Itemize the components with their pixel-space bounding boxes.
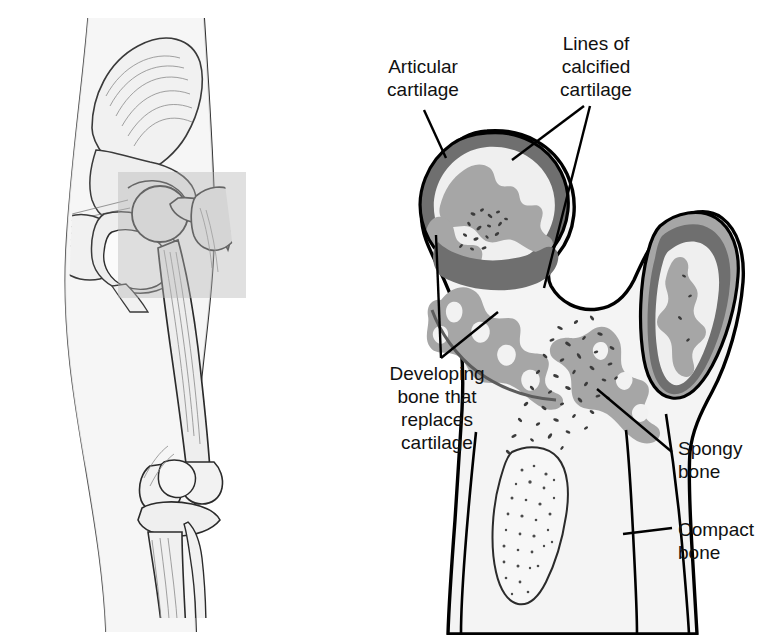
label-developing-bone: Developing bone that replaces cartilage xyxy=(372,362,502,454)
label-spongy-bone: Spongy bone xyxy=(678,437,770,483)
label-compact-bone: Compact bone xyxy=(678,518,774,564)
bone-development-figure: Articular cartilage Lines of calcified c… xyxy=(0,0,775,635)
label-articular-cartilage: Articular cartilage xyxy=(368,55,478,101)
label-lines-of-calcified-cartilage: Lines of calcified cartilage xyxy=(540,32,652,101)
leader-articular-cartilage xyxy=(424,110,446,158)
